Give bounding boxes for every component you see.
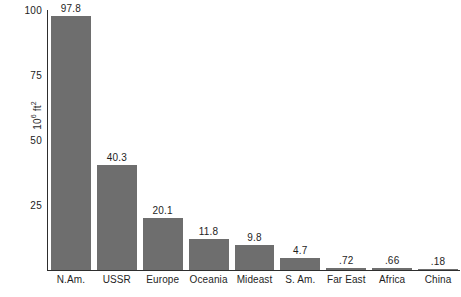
bar (189, 239, 229, 270)
bar-group: .18 (415, 10, 461, 270)
x-axis-category-label: China (415, 274, 461, 285)
x-axis-category-label: Far East (323, 274, 369, 285)
bar-group: 40.3 (94, 10, 140, 270)
bar-group: 4.7 (277, 10, 323, 270)
x-axis-category-label: Oceania (186, 274, 232, 285)
bar-value-label: 4.7 (277, 245, 323, 256)
bar (235, 245, 275, 270)
bar-group: 9.8 (232, 10, 278, 270)
bar-group: 20.1 (140, 10, 186, 270)
plot-area: 97.840.320.111.89.84.7.72.66.18 (48, 10, 461, 270)
y-axis-tick-label: 50 (14, 135, 42, 146)
y-axis-tick-labels: 255075100 (0, 0, 42, 297)
bar (143, 218, 183, 270)
x-axis-category-labels: N.Am.USSREuropeOceaniaMideastS. Am.Far E… (48, 274, 461, 294)
bar (372, 268, 412, 270)
bar (418, 269, 458, 271)
bar-value-label: .72 (323, 255, 369, 266)
bar (280, 258, 320, 270)
x-axis-category-label: S. Am. (277, 274, 323, 285)
bar-value-label: 20.1 (140, 205, 186, 216)
bar-value-label: .66 (369, 255, 415, 266)
x-axis-category-label: USSR (94, 274, 140, 285)
bar-group: 11.8 (186, 10, 232, 270)
y-axis-tick-label: 75 (14, 70, 42, 81)
bar-group: 97.8 (48, 10, 94, 270)
bar-value-label: .18 (415, 256, 461, 267)
y-axis-tick-label: 25 (14, 200, 42, 211)
y-axis-tick-label: 100 (14, 5, 42, 16)
bar (326, 268, 366, 270)
x-axis-category-label: Europe (140, 274, 186, 285)
x-axis-category-label: N.Am. (48, 274, 94, 285)
bar (97, 165, 137, 270)
bar-group: .72 (323, 10, 369, 270)
bar-value-label: 97.8 (48, 3, 94, 14)
bar-value-label: 9.8 (232, 232, 278, 243)
x-axis-line (47, 270, 460, 271)
bar-value-label: 40.3 (94, 152, 140, 163)
bar-chart: 106 ft2 255075100 97.840.320.111.89.84.7… (0, 0, 461, 297)
bar-value-label: 11.8 (186, 226, 232, 237)
bar-group: .66 (369, 10, 415, 270)
x-axis-category-label: Mideast (232, 274, 278, 285)
bar (51, 16, 91, 270)
x-axis-category-label: Africa (369, 274, 415, 285)
